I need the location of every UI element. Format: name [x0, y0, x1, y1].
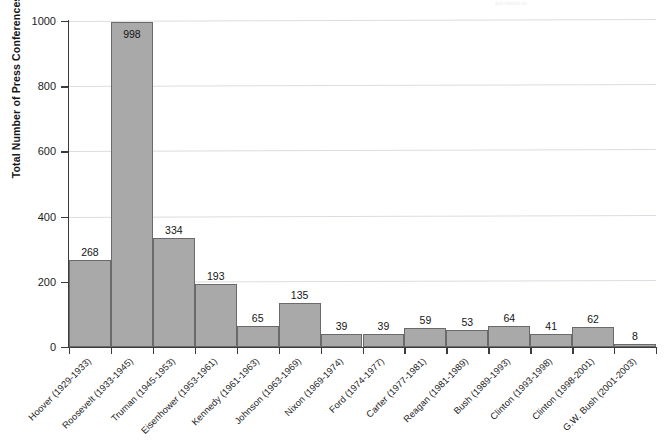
- x-tick-3: [195, 347, 196, 354]
- bar: [279, 303, 321, 347]
- y-tick-label-400: 400: [0, 211, 56, 223]
- bar: [237, 326, 279, 347]
- y-tick-800: [61, 86, 69, 87]
- bar-value-label: 39: [378, 320, 390, 332]
- bar: [111, 22, 153, 347]
- plot-area: 26899833419365135393959536441628: [69, 21, 656, 347]
- bar-value-label: 64: [503, 312, 515, 324]
- x-tick-2: [153, 347, 154, 354]
- bar-value-label: 193: [207, 270, 225, 282]
- x-tick-12: [572, 347, 573, 354]
- gridline-800: [69, 84, 656, 87]
- x-tick-8: [404, 347, 405, 354]
- x-tick-6: [321, 347, 322, 354]
- x-tick-11: [530, 347, 531, 354]
- bar-value-label: 62: [587, 313, 599, 325]
- y-tick-label-800: 800: [0, 80, 56, 92]
- bar: [321, 334, 363, 347]
- bar: [488, 326, 530, 347]
- bar: [195, 284, 237, 347]
- bar-value-label: 53: [461, 316, 473, 328]
- bar: [572, 327, 614, 347]
- bar-value-label: 65: [252, 312, 264, 324]
- bar-value-label: 8: [632, 330, 638, 342]
- y-tick-400: [61, 217, 69, 218]
- x-tick-0: [69, 347, 70, 354]
- bar: [446, 330, 488, 347]
- y-tick-600: [61, 151, 69, 152]
- y-tick-0: [61, 347, 69, 348]
- x-tick-14: [656, 347, 657, 354]
- x-category-label: G.W. Bush (2001-2003): [561, 356, 638, 433]
- page-bleed-through-artifact: ÿ￼ ￼￼￼ ￼: [495, 0, 585, 8]
- x-category-label: Roosevelt (1933-1945): [60, 356, 135, 431]
- x-tick-13: [614, 347, 615, 354]
- gridline-600: [69, 149, 656, 152]
- y-tick-label-200: 200: [0, 276, 56, 288]
- bar-value-label: 334: [165, 224, 183, 236]
- x-tick-4: [237, 347, 238, 354]
- bar-value-label: 268: [81, 246, 99, 258]
- bar: [404, 328, 446, 347]
- y-tick-label-600: 600: [0, 145, 56, 157]
- x-tick-7: [363, 347, 364, 354]
- bar-value-label: 135: [291, 289, 309, 301]
- gridline-400: [69, 215, 656, 218]
- bar-value-label: 998: [123, 28, 141, 40]
- bar-value-label: 59: [420, 314, 432, 326]
- bar: [530, 334, 572, 347]
- bar-value-label: 39: [336, 320, 348, 332]
- x-tick-1: [111, 347, 112, 354]
- press-conference-bar-chart: ÿ￼ ￼￼￼ ￼ Total Number of Press Conferenc…: [0, 0, 672, 447]
- bar: [363, 334, 405, 347]
- y-tick-label-1000: 1000: [0, 15, 56, 27]
- bar: [153, 238, 195, 347]
- bar: [69, 260, 111, 347]
- gridline-1000: [69, 19, 656, 22]
- x-tick-5: [279, 347, 280, 354]
- y-tick-label-0: 0: [0, 341, 56, 353]
- y-tick-1000: [61, 21, 69, 22]
- y-axis-line: [68, 20, 69, 348]
- bar-value-label: 41: [545, 320, 557, 332]
- y-tick-200: [61, 282, 69, 283]
- x-tick-10: [488, 347, 489, 354]
- x-tick-9: [446, 347, 447, 354]
- x-category-label: Eisenhower (1953-1961): [139, 356, 219, 436]
